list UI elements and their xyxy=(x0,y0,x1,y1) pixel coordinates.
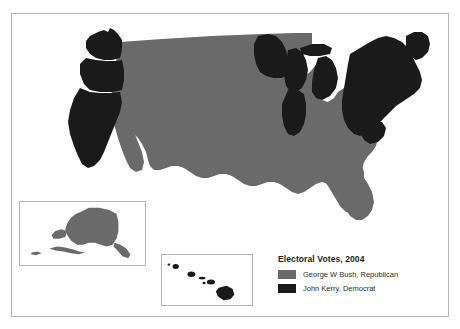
legend-label-republican: George W Bush, Republican xyxy=(303,270,398,279)
map-frame: Electoral Votes, 2004 George W Bush, Rep… xyxy=(11,13,449,317)
legend-swatch-democrat xyxy=(278,284,296,293)
legend-swatch-republican xyxy=(278,270,296,279)
alaska-mainland xyxy=(65,208,118,247)
map-legend: Electoral Votes, 2004 George W Bush, Rep… xyxy=(278,254,438,297)
alaska-aleutian-chain xyxy=(50,247,85,255)
hawaii-map[interactable] xyxy=(162,255,252,305)
hawaii-island-molokai xyxy=(199,277,206,280)
alaska-inset-box[interactable] xyxy=(19,201,146,266)
hawaii-island-niihau xyxy=(167,264,170,266)
hawaii-island-maui xyxy=(207,279,215,284)
alaska-aleutian-tip xyxy=(31,251,42,255)
hawaii-island-kauai xyxy=(173,264,179,269)
legend-label-democrat: John Kerry, Democrat xyxy=(303,284,375,293)
legend-entry-republican[interactable]: George W Bush, Republican xyxy=(278,269,438,279)
legend-title: Electoral Votes, 2004 xyxy=(278,254,438,264)
hawaii-inset-box[interactable] xyxy=(161,254,253,306)
democrat-region-washington[interactable] xyxy=(86,28,122,60)
hawaii-island-lanai xyxy=(203,282,206,285)
democrat-region-oregon[interactable] xyxy=(80,58,124,92)
democrat-region-michigan[interactable] xyxy=(312,56,338,100)
democrat-region-california[interactable] xyxy=(68,88,122,168)
alaska-panhandle xyxy=(114,243,131,259)
alaska-map[interactable] xyxy=(20,202,145,265)
hawaii-island-big-island xyxy=(216,286,235,300)
legend-entry-democrat[interactable]: John Kerry, Democrat xyxy=(278,283,438,293)
hawaii-island-oahu xyxy=(187,272,195,277)
alaska-southwest-arm xyxy=(51,229,67,239)
map-figure: Electoral Votes, 2004 George W Bush, Rep… xyxy=(0,0,460,329)
